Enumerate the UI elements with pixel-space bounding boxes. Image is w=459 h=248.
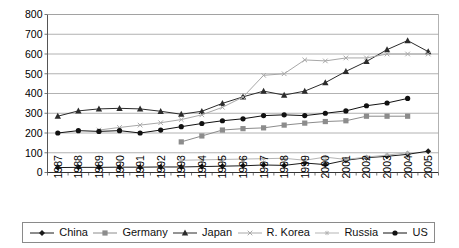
x-tick-label: 1990 bbox=[114, 155, 126, 179]
x-tick-label: 1998 bbox=[278, 155, 290, 179]
y-tick-label: 200 bbox=[25, 127, 43, 139]
data-point bbox=[302, 121, 307, 126]
x-tick-label: 1989 bbox=[93, 155, 105, 179]
data-point bbox=[138, 130, 143, 135]
y-tick-label: 400 bbox=[25, 87, 43, 99]
square-marker-icon bbox=[92, 227, 118, 239]
data-point bbox=[199, 133, 204, 138]
data-point bbox=[240, 126, 245, 131]
legend-label: R. Korea bbox=[265, 227, 310, 238]
diamond-marker-icon bbox=[29, 227, 55, 239]
data-point bbox=[405, 114, 410, 119]
legend-label: Japan bbox=[200, 227, 232, 238]
y-tick-label: 300 bbox=[25, 107, 43, 119]
legend-item-r-korea[interactable]: R. Korea bbox=[237, 227, 310, 239]
x-tick-label: 1987 bbox=[52, 155, 64, 179]
series-germany bbox=[179, 114, 411, 145]
data-point bbox=[179, 124, 184, 129]
data-point bbox=[282, 112, 287, 117]
x-tick-label: 2000 bbox=[319, 155, 331, 179]
data-series-group bbox=[55, 37, 432, 170]
data-point bbox=[282, 123, 287, 128]
data-point bbox=[220, 127, 225, 132]
legend-item-us[interactable]: US bbox=[382, 227, 427, 239]
chart-root: 0100200300400500600700800 19871988198919… bbox=[0, 0, 459, 248]
x-tick-label: 1996 bbox=[237, 155, 249, 179]
data-point bbox=[343, 68, 349, 74]
data-point bbox=[55, 130, 60, 135]
legend-label: Russia bbox=[342, 227, 378, 238]
legend-item-germany[interactable]: Germany bbox=[92, 227, 167, 239]
x-tick-label: 1991 bbox=[134, 155, 146, 179]
data-point bbox=[343, 108, 348, 113]
data-point bbox=[405, 96, 410, 101]
y-tick-label: 800 bbox=[25, 8, 43, 20]
data-point bbox=[76, 128, 81, 133]
x-tick-label: 1993 bbox=[175, 155, 187, 179]
data-point bbox=[323, 119, 328, 124]
data-point bbox=[220, 118, 225, 123]
data-point bbox=[384, 100, 389, 105]
plot-svg: 0100200300400500600700800 19871988198919… bbox=[0, 0, 459, 190]
data-point bbox=[261, 125, 266, 130]
data-point bbox=[384, 114, 389, 119]
legend-item-russia[interactable]: Russia bbox=[314, 227, 378, 239]
asterisk-marker-icon bbox=[314, 227, 340, 239]
x-tick-label: 1988 bbox=[72, 155, 84, 179]
y-tick-label: 100 bbox=[25, 147, 43, 159]
data-point bbox=[363, 58, 369, 64]
legend-label: Germany bbox=[120, 227, 167, 238]
data-point bbox=[323, 111, 328, 116]
x-marker-icon bbox=[237, 227, 263, 239]
y-tick-label: 0 bbox=[37, 166, 43, 178]
data-point bbox=[199, 121, 204, 126]
data-point bbox=[117, 128, 122, 133]
gridlines bbox=[45, 15, 439, 173]
x-tick-label: 2003 bbox=[381, 155, 393, 179]
data-point bbox=[302, 113, 307, 118]
x-tick-label: 2002 bbox=[360, 155, 372, 179]
data-point bbox=[96, 129, 101, 134]
data-point bbox=[364, 114, 369, 119]
data-point bbox=[384, 46, 390, 52]
legend-item-china[interactable]: China bbox=[29, 227, 88, 239]
legend-label: US bbox=[410, 227, 427, 238]
data-point bbox=[179, 139, 184, 144]
x-tick-label: 1995 bbox=[216, 155, 228, 179]
circle-marker-icon bbox=[382, 227, 408, 239]
triangle-marker-icon bbox=[172, 227, 198, 239]
legend-item-japan[interactable]: Japan bbox=[172, 227, 232, 239]
y-axis-labels: 0100200300400500600700800 bbox=[25, 8, 43, 178]
data-point bbox=[158, 127, 163, 132]
data-point bbox=[343, 118, 348, 123]
data-point bbox=[260, 88, 266, 94]
series-russia bbox=[179, 151, 410, 163]
x-tick-label: 2005 bbox=[422, 155, 434, 179]
data-point bbox=[364, 103, 369, 108]
x-tick-label: 2001 bbox=[340, 155, 352, 179]
data-point bbox=[425, 148, 431, 154]
data-point bbox=[405, 151, 409, 155]
data-point bbox=[404, 37, 410, 43]
data-point bbox=[240, 116, 245, 121]
y-tick-label: 700 bbox=[25, 28, 43, 40]
x-tick-label: 1997 bbox=[258, 155, 270, 179]
x-tick-label: 1999 bbox=[299, 155, 311, 179]
chart-legend: ChinaGermanyJapanR. KoreaRussiaUS bbox=[22, 222, 435, 243]
y-tick-label: 600 bbox=[25, 48, 43, 60]
y-tick-label: 500 bbox=[25, 68, 43, 80]
legend-label: China bbox=[57, 227, 88, 238]
x-tick-label: 1992 bbox=[155, 155, 167, 179]
data-point bbox=[322, 79, 328, 85]
x-tick-label: 1994 bbox=[196, 155, 208, 179]
data-point bbox=[261, 113, 266, 118]
series-japan bbox=[55, 37, 432, 119]
x-tick-label: 2004 bbox=[402, 155, 414, 179]
line-chart: 0100200300400500600700800 19871988198919… bbox=[0, 0, 459, 190]
